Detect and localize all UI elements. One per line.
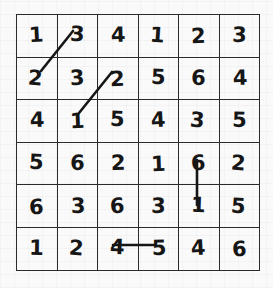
cell-r2c3[interactable]: 2 <box>98 57 139 100</box>
cell-value: 2 <box>191 26 206 47</box>
puzzle-sheet: 1 3 4 1 2 3 2 3 2 5 6 4 4 1 <box>0 0 273 288</box>
cell-r2c2[interactable]: 3 <box>57 57 98 100</box>
cell-r5c1[interactable]: 6 <box>17 185 58 228</box>
cell-value: 2 <box>68 238 84 260</box>
cell-r3c1[interactable]: 4 <box>17 100 58 143</box>
cell-value: 1 <box>149 25 165 47</box>
cell-r6c5[interactable]: 4 <box>179 227 220 270</box>
cell-value: 3 <box>69 68 85 90</box>
cell-r2c4[interactable]: 5 <box>138 57 179 100</box>
table-row: 6 3 6 3 1 5 <box>17 185 260 228</box>
cell-value: 1 <box>70 111 85 132</box>
cell-r5c4[interactable]: 3 <box>138 185 179 228</box>
cell-r3c3[interactable]: 5 <box>98 100 139 143</box>
cell-value: 6 <box>191 68 206 89</box>
cell-r3c4[interactable]: 4 <box>138 100 179 143</box>
cell-r1c2[interactable]: 3 <box>57 15 98 58</box>
number-grid[interactable]: 1 3 4 1 2 3 2 3 2 5 6 4 4 1 <box>16 14 253 264</box>
cell-value: 3 <box>190 110 206 132</box>
cell-value: 1 <box>191 194 206 215</box>
cell-value: 6 <box>70 153 85 174</box>
table-row: 4 1 5 4 3 5 <box>17 100 260 143</box>
table-row: 2 3 2 5 6 4 <box>17 57 260 100</box>
cell-value: 4 <box>30 110 45 131</box>
cell-r1c4[interactable]: 1 <box>138 15 179 58</box>
cell-r6c6[interactable]: 6 <box>219 227 260 270</box>
cell-r6c4[interactable]: 5 <box>138 227 179 270</box>
cell-value: 4 <box>111 25 126 46</box>
cell-value: 2 <box>110 69 125 90</box>
cell-value: 5 <box>110 109 125 130</box>
cell-value: 3 <box>151 196 166 217</box>
cell-r6c2[interactable]: 2 <box>57 227 98 270</box>
cell-value: 6 <box>191 153 207 175</box>
cell-value: 1 <box>151 154 166 175</box>
cell-r5c5[interactable]: 1 <box>179 185 220 228</box>
cell-value: 2 <box>230 153 246 175</box>
cell-r4c6[interactable]: 2 <box>219 142 260 185</box>
table-row: 5 6 2 1 6 2 <box>17 142 260 185</box>
cell-value: 1 <box>29 238 44 259</box>
cell-value: 2 <box>111 153 126 174</box>
cell-r2c1[interactable]: 2 <box>17 57 58 100</box>
cell-r4c2[interactable]: 6 <box>57 142 98 185</box>
cell-r1c3[interactable]: 4 <box>98 15 139 58</box>
cell-value: 4 <box>233 68 248 89</box>
cell-r4c4[interactable]: 1 <box>138 142 179 185</box>
cell-r1c1[interactable]: 1 <box>17 15 58 58</box>
cell-value: 5 <box>29 152 44 173</box>
cell-r4c5[interactable]: 6 <box>179 142 220 185</box>
cell-value: 3 <box>232 25 247 46</box>
cell-value: 6 <box>110 195 126 217</box>
cell-value: 6 <box>232 239 247 260</box>
cell-r4c1[interactable]: 5 <box>17 142 58 185</box>
cell-value: 2 <box>28 67 44 89</box>
cell-r1c6[interactable]: 3 <box>219 15 260 58</box>
cell-value: 1 <box>29 25 45 47</box>
cell-r5c2[interactable]: 3 <box>57 185 98 228</box>
cell-r2c5[interactable]: 6 <box>179 57 220 100</box>
cell-value: 5 <box>151 67 166 88</box>
table-row: 1 3 4 1 2 3 <box>17 15 260 58</box>
cell-value: 5 <box>232 110 247 131</box>
cell-value: 6 <box>29 196 44 217</box>
cell-r1c5[interactable]: 2 <box>179 15 220 58</box>
cell-r4c3[interactable]: 2 <box>98 142 139 185</box>
cell-value: 5 <box>152 238 167 259</box>
table-row: 1 2 4 5 4 6 <box>17 227 260 270</box>
cell-value: 4 <box>150 110 166 132</box>
cell-value: 3 <box>71 196 86 217</box>
cell-r6c1[interactable]: 1 <box>17 227 58 270</box>
cell-value: 5 <box>230 195 246 217</box>
cell-value: 4 <box>191 238 207 260</box>
cell-value: 4 <box>110 237 125 258</box>
cell-r3c5[interactable]: 3 <box>179 100 220 143</box>
grid-table: 1 3 4 1 2 3 2 3 2 5 6 4 4 1 <box>16 14 260 271</box>
cell-value: 3 <box>70 24 85 45</box>
cell-r6c3[interactable]: 4 <box>98 227 139 270</box>
cell-r3c6[interactable]: 5 <box>219 100 260 143</box>
cell-r2c6[interactable]: 4 <box>219 57 260 100</box>
cell-r5c3[interactable]: 6 <box>98 185 139 228</box>
cell-r3c2[interactable]: 1 <box>57 100 98 143</box>
cell-r5c6[interactable]: 5 <box>219 185 260 228</box>
